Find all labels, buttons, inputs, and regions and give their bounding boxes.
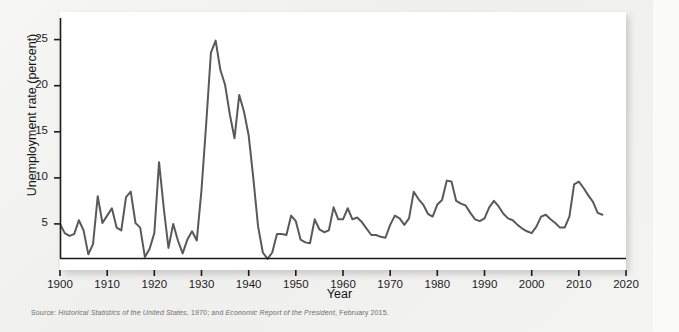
page-edge xyxy=(653,0,679,332)
unemployment-line-chart xyxy=(60,12,626,270)
figure-page: 5101520251900191019201930194019501960197… xyxy=(0,0,679,332)
source-work-two: Economic Report of the President xyxy=(226,309,335,316)
source-middle: , 1970; and xyxy=(187,309,226,316)
x-axis-ticks xyxy=(60,270,626,276)
y-tick-label-5: 5 xyxy=(22,216,48,228)
source-suffix: , February 2015. xyxy=(335,309,389,316)
x-axis-label: Year xyxy=(0,287,679,301)
y-axis-label: Unemployment rate (percent) xyxy=(25,20,39,210)
source-prefix: Source: xyxy=(31,309,56,316)
source-work-one: Historical Statistics of the United Stat… xyxy=(58,309,186,316)
source-note: Source: Historical Statistics of the Uni… xyxy=(31,309,389,316)
chart-plot-panel xyxy=(60,12,626,270)
unemployment-rate-line xyxy=(60,41,602,259)
